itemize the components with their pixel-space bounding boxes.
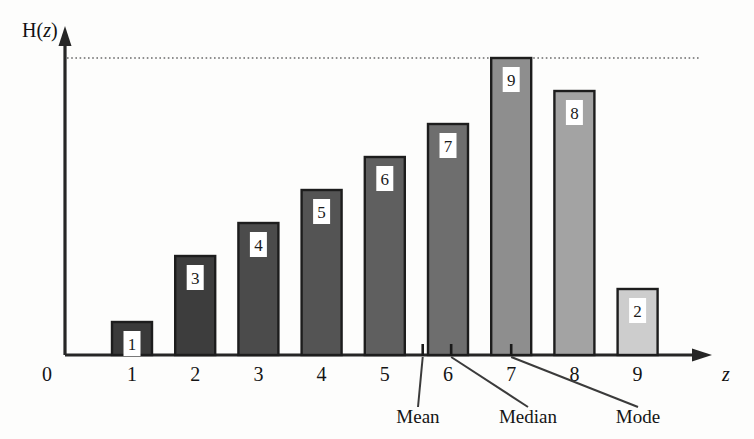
x-tick-label: 4 — [317, 363, 327, 385]
x-tick-label: 7 — [506, 363, 516, 385]
x-tick-label: 6 — [443, 363, 453, 385]
x-tick-label: 2 — [190, 363, 200, 385]
bar-value-label: 2 — [633, 302, 642, 321]
bar-group: 7 — [428, 124, 468, 355]
bar-group: 1 — [112, 322, 152, 356]
bar-value-label: 4 — [254, 236, 263, 255]
x-tick-label: 3 — [253, 363, 263, 385]
bar-value-label: 3 — [191, 269, 200, 288]
bar-value-label: 7 — [444, 137, 453, 156]
bars-layer: 134567982 — [112, 58, 658, 356]
histogram-figure: H(z) z 0 134567982 123456789 MeanMedianM… — [0, 0, 754, 439]
bar-group: 4 — [238, 223, 278, 355]
bar-group: 5 — [302, 190, 342, 355]
y-axis — [59, 26, 72, 355]
bar — [554, 91, 594, 355]
x-tick-label: 1 — [127, 363, 137, 385]
annotation-leader-median — [451, 357, 528, 407]
bar-value-label: 1 — [128, 335, 137, 354]
chart-canvas: H(z) z 0 134567982 123456789 MeanMedianM… — [0, 0, 754, 439]
annotation-label-mode: Mode — [616, 406, 660, 427]
x-tick-label: 5 — [380, 363, 390, 385]
bar-group: 9 — [491, 58, 531, 355]
annotation-label-median: Median — [499, 406, 558, 427]
bar-value-label: 6 — [381, 170, 390, 189]
bar — [428, 124, 468, 355]
x-tick-labels: 123456789 — [127, 363, 643, 385]
y-axis-label: H(z) — [22, 19, 58, 42]
annotation-label-mean: Mean — [396, 406, 440, 427]
origin-label: 0 — [42, 363, 52, 385]
bar-group: 2 — [618, 289, 658, 355]
y-axis-arrowhead — [59, 26, 72, 46]
x-tick-label: 9 — [633, 363, 643, 385]
bar-group: 6 — [365, 157, 405, 355]
bar-value-label: 5 — [317, 203, 326, 222]
bar-value-label: 8 — [570, 104, 579, 123]
annotation-leader-mean — [418, 357, 423, 407]
bar-group: 8 — [554, 91, 594, 355]
x-axis-arrowhead — [692, 349, 712, 362]
x-axis-label: z — [721, 363, 730, 385]
bar-value-label: 9 — [507, 71, 516, 90]
bar-group: 3 — [175, 256, 215, 355]
bar — [491, 58, 531, 355]
